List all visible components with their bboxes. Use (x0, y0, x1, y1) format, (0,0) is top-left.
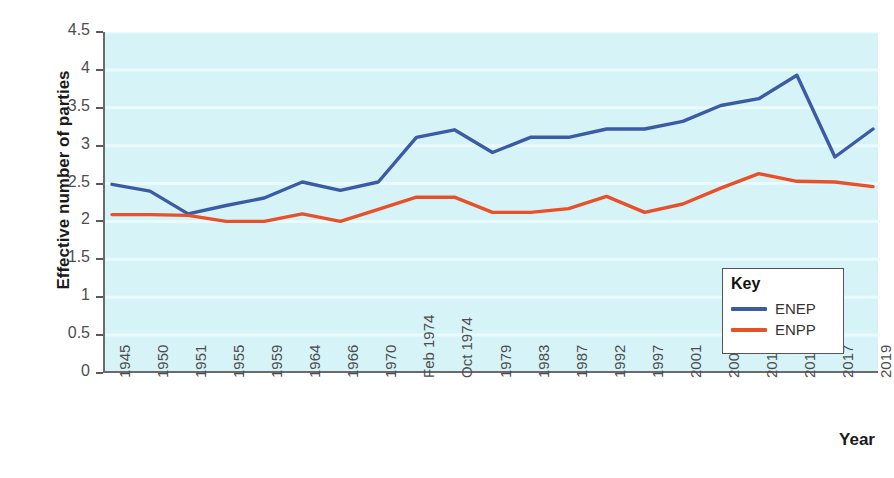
y-tick-mark (96, 69, 103, 71)
y-tick-mark (96, 183, 103, 185)
x-tick-label: 2001 (687, 345, 704, 378)
x-tick-label: 1992 (611, 345, 628, 378)
x-tick-label: 1945 (116, 345, 133, 378)
legend-title: Key (731, 275, 835, 293)
x-tick-label: 1987 (573, 345, 590, 378)
x-tick-label: 2019 (877, 345, 894, 378)
x-tick-label: 1964 (306, 345, 323, 378)
x-tick-label: 1979 (497, 345, 514, 378)
x-tick-label: 1970 (382, 345, 399, 378)
y-tick-label: 4.5 (36, 21, 90, 39)
series-line-enpp (112, 174, 873, 222)
x-tick-label: 1951 (192, 345, 209, 378)
y-tick-mark (96, 145, 103, 147)
legend-box: Key ENEP ENPP (722, 268, 844, 354)
y-tick-mark (96, 258, 103, 260)
legend-entry-enep[interactable]: ENEP (731, 300, 835, 317)
legend-label-enpp: ENPP (775, 321, 816, 338)
y-tick-mark (96, 220, 103, 222)
x-tick-label: Oct 1974 (458, 317, 475, 378)
y-tick-label: 2 (36, 210, 90, 228)
y-tick-mark (96, 372, 103, 374)
y-tick-mark (96, 334, 103, 336)
y-tick-label: 4 (36, 59, 90, 77)
x-tick-label: 1959 (268, 345, 285, 378)
x-tick-label: 1997 (649, 345, 666, 378)
x-tick-label: 1955 (230, 345, 247, 378)
legend-swatch-enep (731, 307, 767, 311)
x-tick-label: 1983 (535, 345, 552, 378)
y-tick-label: 1 (36, 286, 90, 304)
y-tick-mark (96, 31, 103, 33)
legend-label-enep: ENEP (775, 300, 816, 317)
y-tick-mark (96, 107, 103, 109)
y-tick-label: 2.5 (36, 173, 90, 191)
x-tick-label: Feb 1974 (420, 315, 437, 378)
y-tick-label: 3 (36, 135, 90, 153)
legend-swatch-enpp (731, 328, 767, 332)
y-tick-label: 0 (36, 362, 90, 380)
x-axis-title: Year (839, 430, 875, 450)
x-tick-label: 1966 (344, 345, 361, 378)
legend-entry-enpp[interactable]: ENPP (731, 321, 835, 338)
x-tick-label: 1950 (154, 345, 171, 378)
y-tick-label: 3.5 (36, 97, 90, 115)
y-tick-label: 1.5 (36, 248, 90, 266)
y-tick-mark (96, 296, 103, 298)
y-tick-label: 0.5 (36, 324, 90, 342)
